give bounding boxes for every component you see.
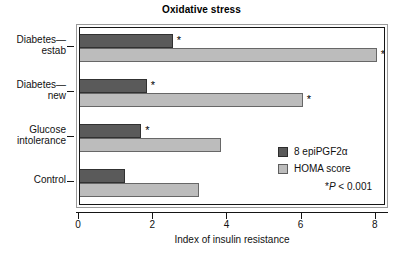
y-axis-label-line: estab (17, 45, 66, 57)
significance-marker-0-series-1: * (381, 49, 385, 60)
y-axis-label-line: intolerance (17, 135, 66, 147)
legend-label-series-1: HOMA score (294, 163, 351, 174)
y-axis-label-line: Diabetes— (17, 79, 66, 91)
bar-1-series-1 (80, 93, 303, 107)
legend-swatch-icon-series-0 (278, 147, 288, 157)
significance-marker-1-series-1: * (307, 94, 311, 105)
legend-item-1[interactable]: HOMA score (278, 161, 351, 176)
significance-marker-2-series-0: * (145, 125, 149, 136)
x-axis-tick-1 (152, 212, 153, 219)
bar-0-series-1 (80, 48, 377, 62)
x-axis-tick-label-1: 2 (149, 219, 155, 230)
bar-1-series-0 (80, 79, 147, 93)
x-axis-tick-label-0: 0 (75, 219, 81, 230)
legend-label-series-0: 8 epiPGF2α (294, 146, 348, 157)
legend-item-0[interactable]: 8 epiPGF2α (278, 144, 351, 159)
y-axis-label-2: Glucoseintolerance (17, 124, 66, 147)
x-axis-tick-0 (78, 212, 79, 219)
significance-footnote: *P < 0.001 (325, 181, 372, 192)
bar-3-series-1 (80, 183, 199, 197)
chart-figure: Oxidative stress Diabetes—estabDiabetes—… (0, 0, 403, 253)
footnote-value: < 0.001 (336, 181, 372, 192)
x-axis-line (76, 212, 388, 213)
y-axis-tick-2 (67, 136, 74, 137)
plot-frame-outer: ***** 8 epiPGF2α HOMA score *P < 0.001 (76, 24, 388, 208)
y-axis-label-3: Control (34, 174, 66, 186)
x-axis-tick-4 (375, 212, 376, 219)
bar-2-series-0 (80, 124, 141, 138)
bar-2-series-1 (80, 138, 221, 152)
legend: 8 epiPGF2α HOMA score (278, 144, 351, 178)
y-axis-tick-1 (67, 91, 74, 92)
x-axis-tick-label-3: 6 (298, 219, 304, 230)
y-axis-label-line: new (17, 90, 66, 102)
x-axis-tick-label-4: 8 (372, 219, 378, 230)
x-axis-tick-3 (301, 212, 302, 219)
significance-marker-1-series-0: * (151, 80, 155, 91)
y-axis-label-0: Diabetes—estab (17, 34, 66, 57)
y-axis-tick-3 (67, 181, 74, 182)
y-axis-label-1: Diabetes—new (17, 79, 66, 102)
footnote-p-symbol: P (329, 181, 336, 192)
chart-title: Oxidative stress (0, 4, 403, 15)
x-axis-title: Index of insulin resistance (76, 234, 388, 245)
y-axis-label-line: Diabetes— (17, 34, 66, 46)
x-axis-tick-2 (226, 212, 227, 219)
significance-marker-0-series-0: * (177, 35, 181, 46)
legend-swatch-icon-series-1 (278, 164, 288, 174)
y-axis-tick-0 (67, 46, 74, 47)
y-axis-label-line: Control (34, 174, 66, 186)
bar-0-series-0 (80, 34, 173, 48)
y-axis-category-labels: Diabetes—estabDiabetes—newGlucoseintoler… (0, 24, 74, 208)
bar-3-series-0 (80, 169, 125, 183)
y-axis-label-line: Glucose (17, 124, 66, 136)
plot-frame-inner: ***** 8 epiPGF2α HOMA score *P < 0.001 (79, 27, 385, 205)
x-axis-tick-label-2: 4 (224, 219, 230, 230)
